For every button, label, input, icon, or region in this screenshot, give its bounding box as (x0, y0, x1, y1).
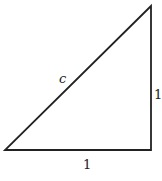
triangle-shape (5, 6, 151, 150)
hypotenuse-label: c (59, 71, 67, 86)
base-label: 1 (83, 157, 91, 172)
height-label: 1 (154, 87, 162, 102)
right-triangle-diagram: c 1 1 (0, 0, 162, 181)
